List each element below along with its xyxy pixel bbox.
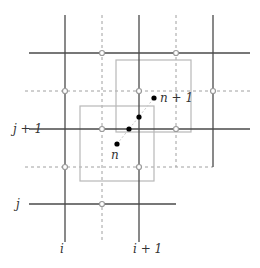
label-particle-n: n: [111, 148, 119, 162]
diagram-canvas: n n + 1 j + 1 j i i + 1: [0, 0, 260, 268]
particle-n-plus-1: [151, 95, 156, 100]
label-col-i-plus-1: i + 1: [133, 242, 162, 256]
grid-node: [100, 127, 105, 132]
particle-n: [114, 141, 119, 146]
grid-node: [100, 51, 105, 56]
grid-node: [174, 51, 179, 56]
label-particle-n-plus-1: n + 1: [160, 91, 193, 105]
grid-diagram: n n + 1 j + 1 j i i + 1: [0, 0, 260, 268]
grid-node: [137, 165, 142, 170]
grid-node: [63, 89, 68, 94]
grid-node: [100, 202, 105, 207]
label-col-i: i: [60, 242, 64, 256]
label-row-j: j: [13, 197, 20, 211]
grid-node: [63, 165, 68, 170]
grid-node: [174, 127, 179, 132]
grid-node: [211, 89, 216, 94]
label-row-j-plus-1: j + 1: [10, 122, 42, 136]
particle-intermediate-1: [126, 126, 131, 131]
particle-intermediate-2: [136, 114, 141, 119]
grid-node: [137, 89, 142, 94]
particle-trajectory: [117, 98, 154, 144]
